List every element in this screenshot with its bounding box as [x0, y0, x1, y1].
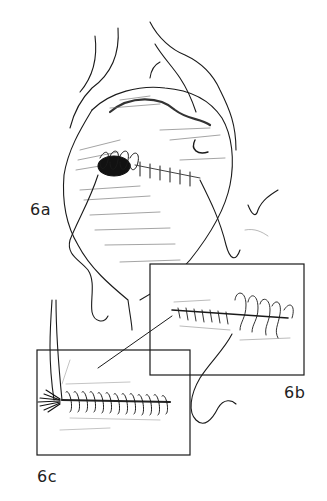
panel-label-6b: 6b	[284, 383, 305, 402]
panel-label-6a: 6a	[30, 200, 51, 219]
panel-label-6c: 6c	[37, 467, 57, 486]
illustration-drawing	[0, 0, 327, 501]
panel-6b-drawing	[150, 264, 304, 423]
surgical-illustration: 6a 6b 6c	[0, 0, 327, 501]
